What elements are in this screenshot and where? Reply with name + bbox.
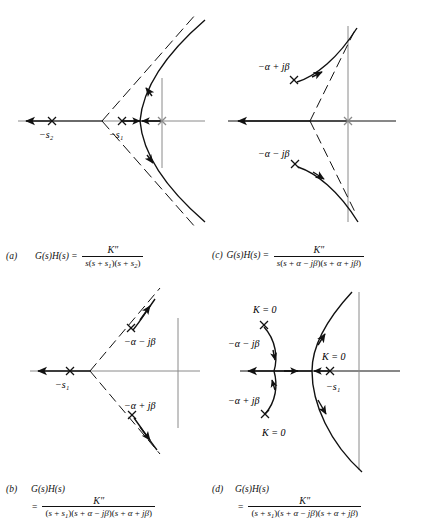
locus-arrow-upper-b <box>140 306 150 320</box>
asymptote-lower-b <box>90 371 160 454</box>
label-k-zero-lower-d: K = 0 <box>261 427 285 438</box>
locus-arrow-lower-b <box>140 427 150 440</box>
label-pole-lower-b: −α + jβ <box>124 400 156 411</box>
locus-branch-lower-a <box>140 121 205 222</box>
formula-a-fraction: K″ s(s + s1)(s + s2) <box>82 244 143 269</box>
pole-marker-lower-d <box>261 410 269 418</box>
panel-d-plot <box>240 292 400 472</box>
formula-c-fraction: K″ s(s + α − jβ)(s + α + jβ) <box>274 244 364 268</box>
formula-b: (b) G(s)H(s) = K″ (s + s1)(s + α − jβ)(s… <box>6 484 157 520</box>
locus-branch-upper-a <box>140 20 205 121</box>
asymptote-upper-a <box>102 14 196 121</box>
formula-b-lhs: G(s)H(s) <box>31 484 65 495</box>
panel-tag-b: (b) <box>6 484 17 495</box>
locus-branch-lower-c <box>298 167 358 222</box>
label-pole-upper-c: −α + jβ <box>258 61 290 72</box>
label-pole-s1-a: −s₁ <box>109 129 123 140</box>
panel-a-plot <box>18 14 205 228</box>
formula-a-numerator: K″ <box>103 244 122 256</box>
formula-a-lhs: G(s)H(s) <box>35 251 69 262</box>
label-pole-lower-d: −α + jβ <box>228 395 260 406</box>
label-pole-lower-c: −α − jβ <box>258 148 290 159</box>
panel-c-plot <box>228 26 396 222</box>
pole-marker-upper-c <box>290 76 298 84</box>
locus-arrow-loop-upper-d <box>273 350 275 360</box>
formula-d-denominator: (s + s1)(s + α − jβ)(s + α + jβ) <box>248 507 361 519</box>
asymptote-upper-b <box>90 288 160 371</box>
formula-b-numerator: K″ <box>89 495 108 507</box>
formula-d-body: G(s)H(s) = K″ (s + s1)(s + α − jβ)(s + α… <box>227 484 363 520</box>
label-pole-s1-d: −s₁ <box>326 381 340 392</box>
panel-tag-d: (d) <box>212 484 223 495</box>
formula-b-body: G(s)H(s) = K″ (s + s1)(s + α − jβ)(s + α… <box>21 484 157 520</box>
label-k-zero-upper-d: K = 0 <box>252 304 276 315</box>
formula-d-fraction: K″ (s + s1)(s + α − jβ)(s + α + jβ) <box>248 495 361 520</box>
formula-b-denominator: (s + s1)(s + α − jβ)(s + α + jβ) <box>42 507 155 519</box>
formula-d-equals: = <box>238 502 243 513</box>
formula-c-denominator: s(s + α − jβ)(s + α + jβ) <box>274 257 364 268</box>
formula-b-equals: = <box>32 502 37 513</box>
label-pole-s2-a: −s₂ <box>39 129 54 140</box>
panel-b-plot <box>30 288 200 454</box>
panel-tag-c: (c) <box>212 250 223 261</box>
formula-d-numerator: K″ <box>295 495 314 507</box>
locus-arrow-right-lower-d <box>318 400 326 414</box>
formula-d: (d) G(s)H(s) = K″ (s + s1)(s + α − jβ)(s… <box>212 484 363 520</box>
formula-c-lhs: G(s)H(s) <box>227 250 261 261</box>
panel-tag-a: (a) <box>6 251 17 262</box>
label-k-zero-real-d: K = 0 <box>321 351 345 362</box>
formula-d-lhs: G(s)H(s) <box>235 484 269 495</box>
figure-page: −s₂ −s₁ −α + jβ −α − jβ −s₁ −α − jβ −α +… <box>0 0 421 524</box>
formula-c-equals: = <box>263 250 268 261</box>
formula-a-denominator: s(s + s1)(s + s2) <box>82 257 143 269</box>
label-pole-s1-b: −s₁ <box>55 379 69 390</box>
formula-b-fraction: K″ (s + s1)(s + α − jβ)(s + α + jβ) <box>42 495 155 520</box>
label-pole-upper-b: −α − jβ <box>124 336 156 347</box>
label-pole-upper-d: −α − jβ <box>228 338 260 349</box>
pole-marker-lower-c <box>291 160 299 168</box>
formula-c-numerator: K″ <box>309 244 328 256</box>
formula-a: (a) G(s)H(s) = K″ s(s + s1)(s + s2) <box>6 244 145 269</box>
formula-a-equals: = <box>72 251 77 262</box>
formula-c: (c) G(s)H(s) = K″ s(s + α − jβ)(s + α + … <box>212 244 366 268</box>
locus-arrow-loop-lower-d <box>272 380 275 390</box>
pole-marker-lower-b <box>128 411 136 419</box>
